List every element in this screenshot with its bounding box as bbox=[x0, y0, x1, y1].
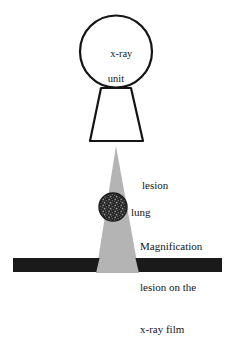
magnification-label-line3: x-ray film bbox=[140, 323, 202, 337]
x-ray-unit-label: x-ray unit bbox=[80, 36, 152, 110]
beam-on-film-overlap bbox=[96, 258, 139, 273]
magnification-label-line2: lesion on the bbox=[140, 281, 202, 295]
magnification-label: Magnification lesion on the x-ray film bbox=[140, 212, 202, 339]
x-ray-unit-label-line2: unit bbox=[80, 73, 152, 85]
magnification-label-line1: Magnification bbox=[140, 240, 202, 254]
x-ray-unit-label-line1: x-ray bbox=[110, 48, 132, 59]
lesion-lung-label-line1: lesion bbox=[142, 179, 168, 191]
